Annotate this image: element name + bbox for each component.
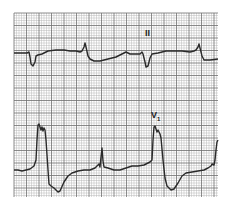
lead-ii-trace [14,43,218,67]
lead-v1-label-subscript: 1 [157,116,160,122]
lead-v1-label: V1 [151,111,160,122]
ecg-tracing [0,0,233,209]
lead-ii-label: II [145,29,150,38]
lead-ii-label-text: II [145,28,150,38]
